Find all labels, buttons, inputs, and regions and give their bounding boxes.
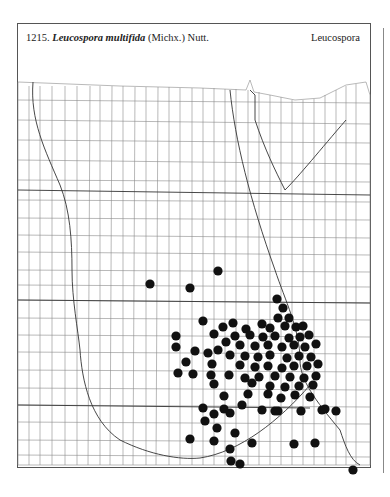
occurrence-dot — [198, 403, 207, 412]
occurrence-dot — [289, 340, 298, 349]
occurrence-dot — [263, 389, 272, 398]
occurrence-dot — [305, 392, 314, 401]
occurrence-dot — [282, 353, 291, 362]
occurrence-dot — [250, 362, 259, 371]
occurrence-dot — [263, 340, 272, 349]
occurrence-dot — [265, 323, 274, 332]
occurrence-dot — [203, 348, 212, 357]
occurrence-dot — [218, 322, 227, 331]
occurrence-dot — [276, 393, 285, 402]
occurrence-dot — [302, 361, 311, 370]
occurrence-dot — [306, 352, 315, 361]
occurrence-dot — [289, 361, 298, 370]
occurrence-dot — [280, 321, 289, 330]
occurrence-dot — [298, 321, 307, 330]
occurrence-dot — [272, 294, 281, 303]
occurrence-dot — [254, 372, 263, 381]
occurrence-dot — [257, 405, 266, 414]
occurrence-dot — [235, 360, 244, 369]
occurrence-dot — [209, 329, 218, 338]
occurrence-dot — [320, 404, 329, 413]
occurrence-dot — [224, 370, 233, 379]
occurrence-dot — [273, 313, 282, 322]
occurrence-dot — [247, 378, 256, 387]
occurrence-dot — [219, 391, 228, 400]
state-boundaries — [18, 82, 370, 465]
occurrence-dot — [299, 373, 308, 382]
occurrence-dot — [289, 439, 298, 448]
occurrence-dot — [250, 341, 259, 350]
occurrence-dot — [277, 342, 286, 351]
occurrence-dot — [190, 346, 199, 355]
occurrence-dot — [235, 340, 244, 349]
occurrence-dot — [225, 350, 234, 359]
occurrence-dot — [225, 444, 234, 453]
occurrence-dot — [270, 371, 279, 380]
occurrence-dots — [145, 266, 357, 474]
occurrence-dot — [253, 352, 262, 361]
occurrence-dot — [265, 350, 274, 359]
occurrence-dot — [294, 381, 303, 390]
occurrence-dot — [209, 379, 218, 388]
county-map — [0, 0, 390, 497]
occurrence-dot — [295, 332, 304, 341]
occurrence-dot — [209, 409, 218, 418]
occurrence-dot — [247, 438, 256, 447]
occurrence-dot — [230, 331, 239, 340]
occurrence-dot — [243, 389, 252, 398]
occurrence-dot — [265, 381, 274, 390]
occurrence-dot — [213, 266, 222, 275]
occurrence-dot — [213, 345, 222, 354]
occurrence-dot — [348, 465, 357, 474]
occurrence-dot — [228, 318, 237, 327]
occurrence-dot — [235, 459, 244, 468]
occurrence-dot — [173, 368, 182, 377]
occurrence-dot — [181, 357, 190, 366]
occurrence-dot — [171, 342, 180, 351]
occurrence-dot — [310, 438, 319, 447]
occurrence-dot — [290, 390, 299, 399]
occurrence-dot — [278, 303, 287, 312]
occurrence-dot — [331, 406, 340, 415]
occurrence-dot — [209, 436, 218, 445]
occurrence-dot — [185, 434, 194, 443]
occurrence-dot — [257, 319, 266, 328]
occurrence-dot — [294, 351, 303, 360]
occurrence-dot — [300, 342, 309, 351]
occurrence-dot — [198, 316, 207, 325]
occurrence-dot — [240, 351, 249, 360]
occurrence-dot — [313, 359, 322, 368]
occurrence-dot — [285, 372, 294, 381]
occurrence-dot — [171, 331, 180, 340]
occurrence-dot — [296, 406, 305, 415]
occurrence-dot — [311, 339, 320, 348]
occurrence-dot — [311, 371, 320, 380]
occurrence-dot — [270, 331, 279, 340]
occurrence-dot — [270, 406, 279, 415]
occurrence-dot — [230, 428, 239, 437]
occurrence-dot — [258, 332, 267, 341]
occurrence-dot — [277, 363, 286, 372]
occurrence-dot — [304, 330, 313, 339]
occurrence-dot — [207, 359, 216, 368]
occurrence-dot — [263, 361, 272, 370]
occurrence-dot — [280, 382, 289, 391]
occurrence-dot — [188, 369, 197, 378]
occurrence-dot — [212, 423, 221, 432]
occurrence-dot — [284, 313, 293, 322]
occurrence-dot — [185, 283, 194, 292]
occurrence-dot — [308, 380, 317, 389]
occurrence-dot — [245, 330, 254, 339]
occurrence-dot — [145, 279, 154, 288]
occurrence-dot — [237, 400, 246, 409]
occurrence-dot — [221, 337, 230, 346]
occurrence-dot — [206, 370, 215, 379]
occurrence-dot — [219, 404, 228, 413]
occurrence-dot — [200, 416, 209, 425]
occurrence-dot — [226, 456, 235, 465]
